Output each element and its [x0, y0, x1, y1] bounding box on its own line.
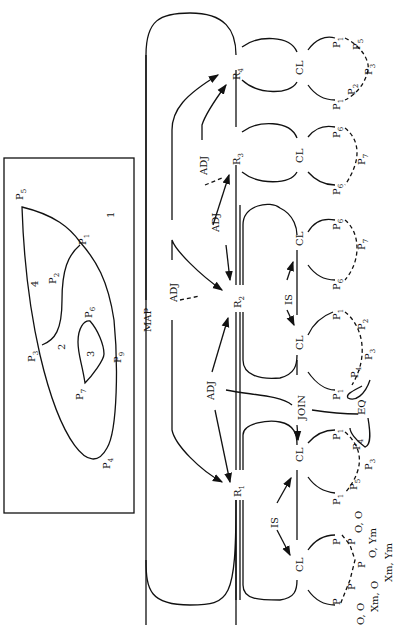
map-panel: P5 P1 P2 P3 P6 P7 P9 P4 1 2 3 4: [4, 158, 134, 513]
adj-label-r1-r2: ADJ: [205, 381, 216, 401]
svg-text:P7: P7: [356, 154, 370, 165]
point-label-p6: P6: [83, 306, 97, 318]
svg-text:P3: P3: [363, 64, 377, 75]
svg-text:P4: P4: [349, 366, 363, 378]
point-label-p4: P4: [101, 457, 115, 469]
svg-text:P1: P1: [331, 37, 345, 48]
map-label: MAP: [142, 308, 153, 332]
svg-text:P2: P2: [356, 319, 370, 330]
adj-label-r3-r4: ADJ: [198, 156, 209, 176]
svg-text:P5: P5: [351, 39, 365, 50]
region-node-r3: R3: [231, 153, 245, 165]
adj-label-r2-r3: ADJ: [210, 213, 221, 233]
point-label-p9: P9: [112, 352, 126, 363]
region-node-r4: R4: [231, 67, 245, 80]
cl-label-r1-bottom: CL: [294, 557, 305, 572]
region-number-2: 2: [56, 344, 67, 350]
coord-label-xm-ym: Xm, Ym: [383, 542, 394, 582]
svg-text:P: P: [346, 583, 357, 590]
svg-text:P: P: [331, 598, 342, 605]
coord-label-o-o: O, O: [353, 511, 364, 533]
cl-label-r2-bottom: CL: [294, 335, 305, 350]
is-label-r1: IS: [269, 517, 280, 528]
adj-relations: ADJ ADJ ADJ ADJ: [168, 75, 230, 482]
coord-label-xm-o: Xm, O: [369, 581, 380, 612]
point-label-p7: P7: [74, 389, 88, 400]
region-number-3: 3: [85, 351, 96, 357]
point-label-p3: P3: [26, 351, 40, 362]
adj-label-map-r2: ADJ: [168, 283, 179, 303]
svg-text:P1: P1: [331, 309, 345, 320]
svg-text:P: P: [346, 538, 357, 545]
map-relation: MAP: [142, 13, 236, 625]
region-node-r1: R1: [232, 485, 246, 497]
cl-label-r1-top: CL: [294, 447, 305, 462]
point-label-p5: P5: [14, 189, 28, 200]
region-map-diagram: P5 P1 P2 P3 P6 P7 P9 P4 1 2 3 4 MAP R4 R…: [0, 0, 405, 625]
svg-text:P: P: [356, 561, 367, 568]
svg-text:P5: P5: [348, 479, 362, 490]
region-number-1: 1: [105, 212, 116, 218]
svg-text:P7: P7: [356, 239, 370, 250]
svg-text:P3: P3: [363, 349, 377, 360]
is-label-r2: IS: [283, 294, 294, 305]
point-label-p1: P1: [77, 234, 91, 245]
point-chains: EQ P1 P5 P3 P2 P1 P6 P7 P6 P6 P7 P6 P1 P…: [308, 37, 394, 625]
svg-text:P: P: [331, 538, 342, 545]
svg-text:P6: P6: [331, 126, 345, 138]
cl-label-r4: CL: [294, 60, 305, 75]
svg-text:P1: P1: [331, 494, 345, 505]
cl-label-r3: CL: [294, 148, 305, 163]
svg-text:P4: P4: [351, 438, 365, 450]
coord-label-o-ym: O, Ym: [367, 527, 378, 558]
coord-label-o-o-2: O, O: [355, 603, 366, 625]
svg-text:P3: P3: [363, 459, 377, 470]
eq-label: EQ: [356, 400, 367, 416]
region-node-r2: R2: [232, 296, 246, 308]
join-label: JOIN: [296, 395, 307, 421]
cl-label-r2-top: CL: [294, 231, 305, 246]
region-number-4: 4: [29, 281, 40, 287]
point-label-p2: P2: [47, 273, 61, 284]
